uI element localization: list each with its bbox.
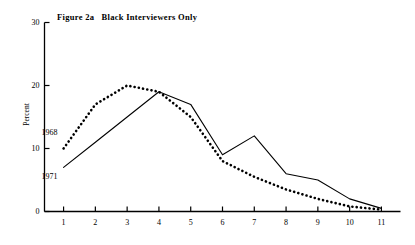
x-tick-label: 6 <box>215 218 231 227</box>
series-line-1971 <box>64 92 382 209</box>
x-tick-label: 11 <box>373 218 389 227</box>
x-tick-label: 2 <box>87 218 103 227</box>
series-annotation-1968: 1968 <box>42 128 58 137</box>
y-tick-label: 0 <box>18 207 40 216</box>
x-tick-label: 9 <box>310 218 326 227</box>
x-tick-label: 4 <box>151 218 167 227</box>
chart-axes <box>45 23 401 212</box>
chart-series <box>64 86 382 210</box>
x-tick-label: 10 <box>342 218 358 227</box>
x-tick-label: 5 <box>183 218 199 227</box>
series-annotation-1971: 1971 <box>42 172 58 181</box>
x-tick-label: 1 <box>56 218 72 227</box>
chart-title: Figure 2a Black Interviewers Only <box>57 12 197 22</box>
x-tick-label: 3 <box>119 218 135 227</box>
y-tick-label: 30 <box>18 18 40 27</box>
y-tick-label: 20 <box>18 81 40 90</box>
chart-plot-area <box>0 0 415 245</box>
series-line-1968 <box>64 86 382 210</box>
x-tick-label: 7 <box>246 218 262 227</box>
figure-2a-chart: Figure 2a Black Interviewers Only Percen… <box>0 0 415 245</box>
y-axis-label: Percent <box>22 85 31 145</box>
y-tick-label: 10 <box>18 144 40 153</box>
x-tick-label: 8 <box>278 218 294 227</box>
